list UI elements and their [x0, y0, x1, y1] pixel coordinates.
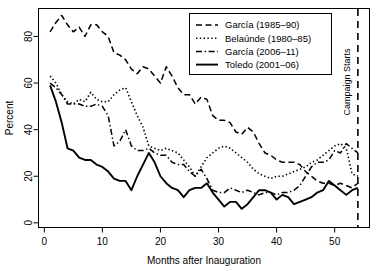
legend-item-label: Toledo (2001–06) [225, 59, 299, 70]
legend-item-label: Belaúnde (1980–85) [225, 33, 311, 44]
x-tick-label: 50 [329, 236, 341, 247]
x-tick-label: 30 [213, 236, 225, 247]
x-axis-label: Months after Inauguration [147, 255, 261, 266]
y-axis-label: Percent [4, 101, 15, 136]
x-tick-label: 0 [42, 236, 48, 247]
y-tick-label: 20 [23, 170, 34, 182]
legend-item-label: García (1985–90) [225, 19, 299, 30]
x-tick-label: 10 [97, 236, 109, 247]
percent-approval-line-chart: 020406080 01020304050 Percent Months aft… [0, 0, 383, 271]
y-tick-label: 60 [23, 77, 34, 89]
y-tick-label: 80 [23, 30, 34, 42]
chart-figure: 020406080 01020304050 Percent Months aft… [0, 0, 383, 271]
legend: García (1985–90)Belaúnde (1980–85)García… [190, 14, 332, 75]
campaign-starts-label: Campaign Starts [342, 48, 352, 116]
y-tick-label: 40 [23, 124, 34, 136]
y-tick-label: 0 [23, 220, 34, 226]
legend-item-label: García (2006–11) [225, 46, 299, 57]
x-tick-label: 20 [155, 236, 167, 247]
x-tick-label: 40 [271, 236, 283, 247]
